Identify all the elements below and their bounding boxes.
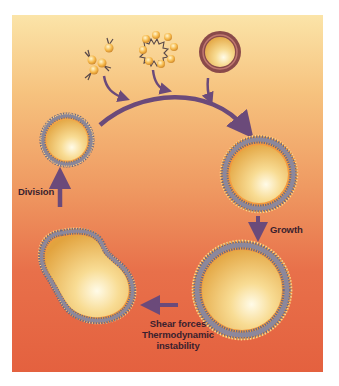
shear-label-line2: Thermodynamic <box>118 329 238 340</box>
small-vesicle-icon <box>41 114 93 166</box>
monomer-input-arrow <box>104 76 124 98</box>
micelle-icon <box>139 31 178 68</box>
amphiphile-monomers-icon <box>85 38 114 80</box>
assembly-arc-arrow <box>100 97 245 128</box>
growth-label: Growth <box>270 224 303 235</box>
vesicle-input-arrow <box>208 78 210 99</box>
preformed-vesicle-icon <box>199 31 241 73</box>
division-label: Division <box>18 186 54 197</box>
dividing-vesicle-icon <box>39 228 136 323</box>
vesicle-icon <box>220 135 298 213</box>
shear-label-line3: instability <box>118 340 238 351</box>
shear-label-line1: Shear forces <box>118 318 238 329</box>
micelle-input-arrow <box>153 70 166 90</box>
shear-forces-label: Shear forces Thermodynamic instability <box>118 318 238 351</box>
